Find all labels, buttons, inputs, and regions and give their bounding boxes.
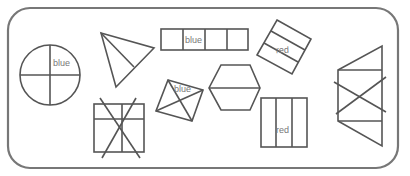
crossed-trapezoid-shape (334, 46, 386, 146)
diamond-shape: blue (156, 80, 203, 121)
tilted-rect-label: red (276, 45, 289, 55)
hexagon-shape (209, 65, 260, 110)
diamond-label: blue (174, 84, 191, 94)
shapes-diagram: blue blue red blue (0, 0, 410, 176)
strip-shape: blue (161, 29, 248, 50)
circle-shape: blue (20, 45, 80, 105)
strip-label: blue (185, 35, 202, 45)
red-rect-label: red (276, 125, 289, 135)
tilted-rect-shape: red (257, 20, 311, 74)
crossed-square-shape (94, 98, 144, 158)
frame-border (8, 8, 398, 168)
circle-label: blue (53, 58, 70, 68)
red-rect-shape: red (261, 98, 307, 147)
triangle-shape (101, 33, 154, 87)
